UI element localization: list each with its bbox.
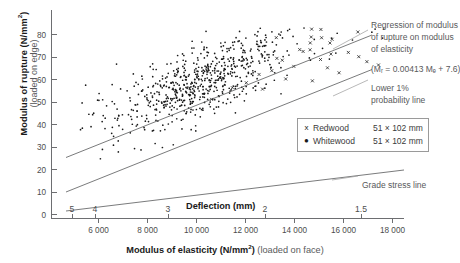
scatter-point [256, 35, 258, 37]
scatter-point [207, 99, 209, 101]
scatter-point [162, 147, 164, 149]
scatter-point [280, 67, 282, 69]
scatter-point [223, 73, 225, 75]
scatter-point [204, 78, 206, 80]
scatter-point [170, 98, 172, 100]
scatter-point [146, 97, 148, 99]
scatter-point [172, 98, 174, 100]
scatter-point [262, 45, 264, 47]
scatter-point [218, 100, 220, 102]
scatter-point [195, 82, 197, 84]
scatter-point [203, 46, 205, 48]
scatter-point [102, 115, 104, 117]
scatter-point [231, 68, 233, 70]
scatter-point [144, 129, 146, 131]
scatter-point [261, 56, 263, 58]
scatter-point [162, 78, 164, 80]
scatter-point [176, 74, 178, 76]
scatter-point [111, 132, 113, 134]
deflection-tick-label: 2 [263, 204, 268, 214]
scatter-point [104, 117, 106, 119]
scatter-point [186, 83, 188, 85]
scatter-point [319, 58, 322, 61]
y-axis-ticks [52, 35, 58, 215]
scatter-point [183, 84, 185, 86]
scatter-point [165, 101, 167, 103]
scatter-point [258, 82, 260, 84]
scatter-point [152, 76, 154, 78]
x-tick-label: 18 000 [380, 226, 405, 235]
scatter-point [230, 101, 232, 103]
scatter-point [210, 72, 212, 74]
scatter-point [131, 109, 133, 111]
scatter-point [185, 60, 187, 62]
scatter-point [232, 45, 234, 47]
scatter-point [211, 63, 213, 65]
scatter-point [320, 36, 323, 39]
scatter-point [165, 105, 167, 107]
scatter-point [175, 101, 177, 103]
scatter-point [292, 36, 294, 38]
scatter-point [193, 85, 195, 87]
scatter-point [148, 121, 150, 123]
scatter-point [230, 57, 232, 59]
scatter-point [274, 50, 276, 52]
scatter-point [239, 93, 241, 95]
scatter-point [225, 81, 227, 83]
scatter-point [160, 84, 162, 86]
scatter-point [168, 87, 170, 89]
scatter-point [278, 33, 280, 35]
scatter-point [130, 116, 132, 118]
scatter-point [154, 93, 156, 95]
scatter-point [197, 88, 199, 90]
scatter-point [227, 73, 229, 75]
scatter-point [234, 41, 236, 43]
scatter-point [170, 82, 172, 84]
scatter-point [190, 101, 192, 103]
scatter-point [199, 99, 201, 101]
scatter-point [214, 86, 216, 88]
dot-marker-icon: ● [302, 135, 311, 147]
scatter-point [230, 47, 232, 49]
y-axis-title-superscript: 2 [16, 15, 23, 19]
y-tick-label: 20 [37, 166, 47, 175]
scatter-point [260, 42, 262, 44]
scatter-point [251, 56, 253, 58]
legend-size-redwood: 51 × 102 mm [373, 122, 423, 135]
scatter-point [200, 53, 202, 55]
scatter-point [136, 110, 138, 112]
scatter-point [228, 60, 230, 62]
scatter-point [227, 98, 229, 100]
scatter-point [264, 87, 266, 89]
scatter-point [82, 127, 84, 129]
scatter-point [207, 67, 209, 69]
scatter-point [175, 82, 177, 84]
scatter-point [192, 93, 194, 95]
scatter-point [236, 75, 238, 77]
scatter-point [147, 104, 149, 106]
scatter-point [164, 104, 166, 106]
scatter-point [172, 144, 174, 146]
scatter-point [102, 149, 104, 151]
scatter-point [181, 128, 183, 130]
scatter-point [184, 105, 186, 107]
scatter-point [266, 54, 268, 56]
scatter-point [192, 88, 194, 90]
scatter-point [198, 79, 200, 81]
x-axis-title: Modulus of elasticity (N/mm2) (loaded on… [0, 243, 450, 257]
scatter-point [132, 73, 134, 75]
scatter-point [252, 87, 254, 89]
scatter-point [273, 79, 275, 81]
scatter-point [191, 98, 193, 100]
scatter-point [178, 84, 180, 86]
scatter-point [222, 102, 224, 104]
scatter-point [228, 87, 230, 89]
scatter-point [286, 50, 288, 52]
scatter-point [192, 109, 194, 111]
x-tick-label: 8 000 [137, 226, 158, 235]
scatter-point [239, 77, 241, 79]
scatter-point [201, 80, 203, 82]
scatter-point [100, 158, 102, 160]
scatter-point [234, 72, 236, 74]
scatter-point [191, 82, 193, 84]
